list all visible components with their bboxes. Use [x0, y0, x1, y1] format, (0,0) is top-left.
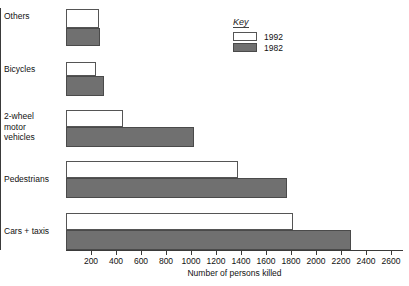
x-tick-2200: [341, 251, 342, 255]
category-label-pedestrians: Pedestrians: [4, 174, 64, 185]
x-axis-title: Number of persons killed: [66, 268, 403, 278]
x-tick-1000: [191, 251, 192, 255]
legend-entry-1992: 1992: [233, 31, 283, 42]
bar-others-1982: [66, 28, 100, 46]
x-tick-800: [166, 251, 167, 255]
bar-2wheel-1982: [66, 127, 194, 147]
bar-others-1992: [66, 9, 99, 28]
bar-pedestrians-1982: [66, 178, 287, 198]
bar-bicycles-1992: [66, 62, 96, 76]
bar-cars-taxis-1992: [66, 213, 293, 230]
bar-2wheel-1992: [66, 110, 123, 127]
category-label-bicycles: Bicycles: [4, 64, 64, 75]
category-label-cars-taxis: Cars + taxis: [4, 226, 64, 237]
legend-swatch-1982: [233, 43, 257, 52]
category-label-others: Others: [4, 11, 64, 22]
bar-chart: Others Bicycles 2-wheel motor vehicles P…: [0, 0, 409, 286]
category-label-2-wheel-motor-vehicles: 2-wheel motor vehicles: [4, 111, 64, 143]
x-tick-1200: [216, 251, 217, 255]
legend-label-1982: 1982: [264, 43, 283, 53]
x-tick-200: [91, 251, 92, 255]
x-tick-2600: [391, 251, 392, 255]
bar-bicycles-1982: [66, 76, 104, 96]
y-axis-line: [0, 8, 1, 250]
x-tick-1600: [266, 251, 267, 255]
bar-pedestrians-1992: [66, 161, 238, 178]
x-tick-2400: [366, 251, 367, 255]
x-tick-600: [141, 251, 142, 255]
x-tick-1800: [291, 251, 292, 255]
legend: Key 1992 1982: [233, 17, 283, 53]
legend-label-1992: 1992: [264, 32, 283, 42]
x-tick-2000: [316, 251, 317, 255]
legend-swatch-1992: [233, 32, 257, 41]
legend-title: Key: [233, 17, 249, 28]
x-tick-400: [116, 251, 117, 255]
legend-entry-1982: 1982: [233, 42, 283, 53]
x-tick-label-2600: 2600: [371, 256, 409, 266]
bar-cars-taxis-1982: [66, 230, 351, 250]
x-tick-1400: [241, 251, 242, 255]
